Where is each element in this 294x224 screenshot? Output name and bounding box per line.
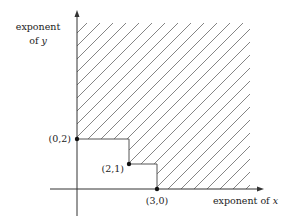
hatched-region bbox=[0, 20, 294, 200]
point-2-1 bbox=[127, 162, 131, 166]
point-label-3-0: (3,0) bbox=[146, 195, 169, 206]
point-label-2-1: (2,1) bbox=[101, 163, 124, 174]
y-axis-arrow-icon bbox=[75, 10, 80, 17]
x-axis-arrow-icon bbox=[257, 187, 264, 192]
monomial-ideal-diagram: exponent of y (0,2) (2,1) (3,0) exponent… bbox=[0, 0, 294, 224]
y-axis-label-line1: exponent bbox=[16, 21, 61, 32]
y-axis-label-line2: of y bbox=[29, 35, 47, 46]
x-axis-label: exponent of x bbox=[213, 195, 279, 206]
point-3-0 bbox=[155, 187, 159, 191]
point-0-2 bbox=[75, 137, 79, 141]
point-label-0-2: (0,2) bbox=[48, 133, 71, 144]
